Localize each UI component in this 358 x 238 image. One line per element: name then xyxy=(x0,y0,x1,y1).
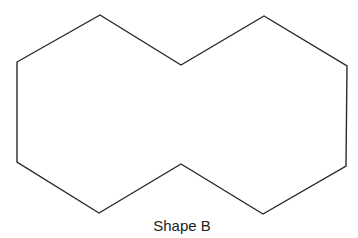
figure-caption: Shape B xyxy=(0,217,358,234)
shape-b-outline xyxy=(0,0,358,238)
figure: Shape B xyxy=(0,0,358,238)
shape-b-polygon xyxy=(17,15,347,214)
